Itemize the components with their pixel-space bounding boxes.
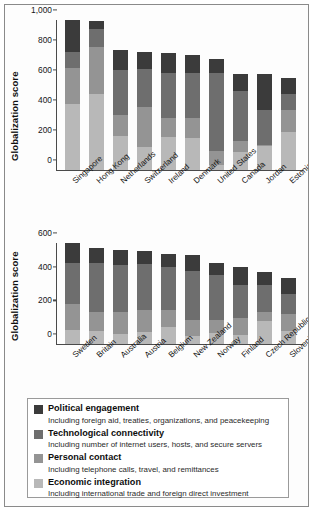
bar-segment xyxy=(281,94,296,110)
x-axis-labels-bottom: SwedenBritainAustraliaAustriaBelgiumNew … xyxy=(56,346,303,406)
bar-column[interactable] xyxy=(156,20,180,170)
x-axis-label-cell: Norway xyxy=(204,346,228,406)
bar-segment xyxy=(113,50,128,70)
bar-segment xyxy=(65,52,80,69)
legend-item-personal[interactable]: Personal contactIncluding telephone call… xyxy=(34,452,282,476)
x-axis-label-cell: Austria xyxy=(131,346,155,406)
legend-item-title: Political engagement xyxy=(48,403,282,415)
bar-segment xyxy=(281,110,296,132)
bar-segment xyxy=(65,104,80,170)
bar-segment xyxy=(65,243,80,263)
stacked-bar[interactable] xyxy=(257,74,272,170)
bar-segment xyxy=(161,267,176,309)
bar-column[interactable] xyxy=(108,20,132,170)
bar-column[interactable] xyxy=(60,243,84,344)
stacked-bar[interactable] xyxy=(233,267,248,344)
x-axis-label-cell: Switzerland xyxy=(131,172,155,232)
x-axis-label-cell: New Zealand xyxy=(179,346,203,406)
y-axis-tick: 400 xyxy=(38,262,57,272)
bar-segment xyxy=(257,110,272,145)
y-axis-label-bottom: Globalization score xyxy=(9,241,20,341)
bar-column[interactable] xyxy=(180,20,204,170)
bar-segment xyxy=(89,248,104,263)
stacked-bar[interactable] xyxy=(161,254,176,344)
legend-item-title: Economic integration xyxy=(48,477,282,489)
bar-segment xyxy=(65,330,80,344)
bar-segment xyxy=(233,91,248,141)
bar-segment xyxy=(161,254,176,267)
x-axis-label-cell: Denmark xyxy=(179,172,203,232)
bar-column[interactable] xyxy=(132,243,156,344)
stacked-bar[interactable] xyxy=(185,255,200,344)
legend-text-block: Political engagementIncluding foreign ai… xyxy=(48,403,282,427)
legend-item-subtitle: Including international trade and foreig… xyxy=(48,488,282,499)
bar-column[interactable] xyxy=(204,20,228,170)
stacked-bar[interactable] xyxy=(137,251,152,344)
bar-segment xyxy=(161,73,176,118)
bar-segment xyxy=(113,250,128,265)
legend-item-title: Technological connectivity xyxy=(48,428,282,440)
x-axis-label-cell: Belgium xyxy=(155,346,179,406)
bar-column[interactable] xyxy=(252,20,276,170)
stacked-bar[interactable] xyxy=(89,248,104,344)
stacked-bar[interactable] xyxy=(209,59,224,170)
stacked-bar[interactable] xyxy=(65,243,80,344)
bar-segment xyxy=(137,107,152,147)
bar-segment xyxy=(137,69,152,107)
bar-column[interactable] xyxy=(60,20,84,170)
bar-segment xyxy=(185,73,200,119)
bar-segment xyxy=(209,275,224,320)
bar-column[interactable] xyxy=(228,20,252,170)
bar-column[interactable] xyxy=(252,243,276,344)
y-axis-tick: 1,000 xyxy=(31,5,57,15)
bar-segment xyxy=(209,263,224,275)
legend-item-political[interactable]: Political engagementIncluding foreign ai… xyxy=(34,403,282,427)
stacked-bar[interactable] xyxy=(89,21,104,170)
legend-swatch-icon xyxy=(34,479,43,488)
x-axis-label-cell: Jordan xyxy=(252,172,276,232)
chart-panel-top: Globalization score 02004006008001,000 S… xyxy=(5,9,308,237)
bar-segment xyxy=(233,141,248,152)
legend: Political engagementIncluding foreign ai… xyxy=(27,398,289,498)
legend-item-technological[interactable]: Technological connectivityIncluding numb… xyxy=(34,428,282,452)
bar-segment xyxy=(185,271,200,321)
y-axis-tick: 0 xyxy=(47,155,57,165)
bar-column[interactable] xyxy=(132,20,156,170)
bar-column[interactable] xyxy=(84,20,108,170)
legend-item-title: Personal contact xyxy=(48,452,282,464)
stacked-bar[interactable] xyxy=(113,250,128,344)
stacked-bar[interactable] xyxy=(257,272,272,344)
bar-segment xyxy=(233,74,248,91)
globalization-index-figure: Globalization score 02004006008001,000 S… xyxy=(4,4,309,507)
stacked-bar[interactable] xyxy=(185,55,200,170)
y-axis-tick: 600 xyxy=(38,65,57,75)
x-axis-label-cell: Slovenia xyxy=(276,346,300,406)
bar-column[interactable] xyxy=(84,243,108,344)
bar-segment xyxy=(161,310,176,328)
x-axis-label-cell: Finland xyxy=(228,346,252,406)
y-axis-label-top: Globalization score xyxy=(9,21,20,161)
stacked-bar[interactable] xyxy=(65,20,80,170)
plot-area-top: 02004006008001,000 xyxy=(56,20,303,171)
bar-segment xyxy=(89,21,104,29)
bar-column[interactable] xyxy=(156,243,180,344)
bar-column[interactable] xyxy=(276,20,300,170)
bar-column[interactable] xyxy=(108,243,132,344)
bar-segment xyxy=(161,53,176,73)
y-axis-tick: 200 xyxy=(38,125,57,135)
bar-segment xyxy=(281,294,296,313)
stacked-bar[interactable] xyxy=(281,78,296,170)
bar-segment xyxy=(257,272,272,285)
bar-column[interactable] xyxy=(180,243,204,344)
bar-segment xyxy=(233,267,248,285)
bar-segment xyxy=(113,265,128,312)
y-axis-tick: 600 xyxy=(38,228,57,238)
bar-segment xyxy=(89,29,104,47)
x-axis-label-cell: Canada xyxy=(228,172,252,232)
legend-item-economic[interactable]: Economic integrationIncluding internatio… xyxy=(34,477,282,501)
bar-segment xyxy=(257,285,272,312)
bar-segment xyxy=(233,285,248,318)
x-axis-label-cell: Netherlands xyxy=(107,172,131,232)
legend-item-subtitle: Including telephone calls, travel, and r… xyxy=(48,464,282,475)
x-axis-label-cell: Estonia xyxy=(276,172,300,232)
